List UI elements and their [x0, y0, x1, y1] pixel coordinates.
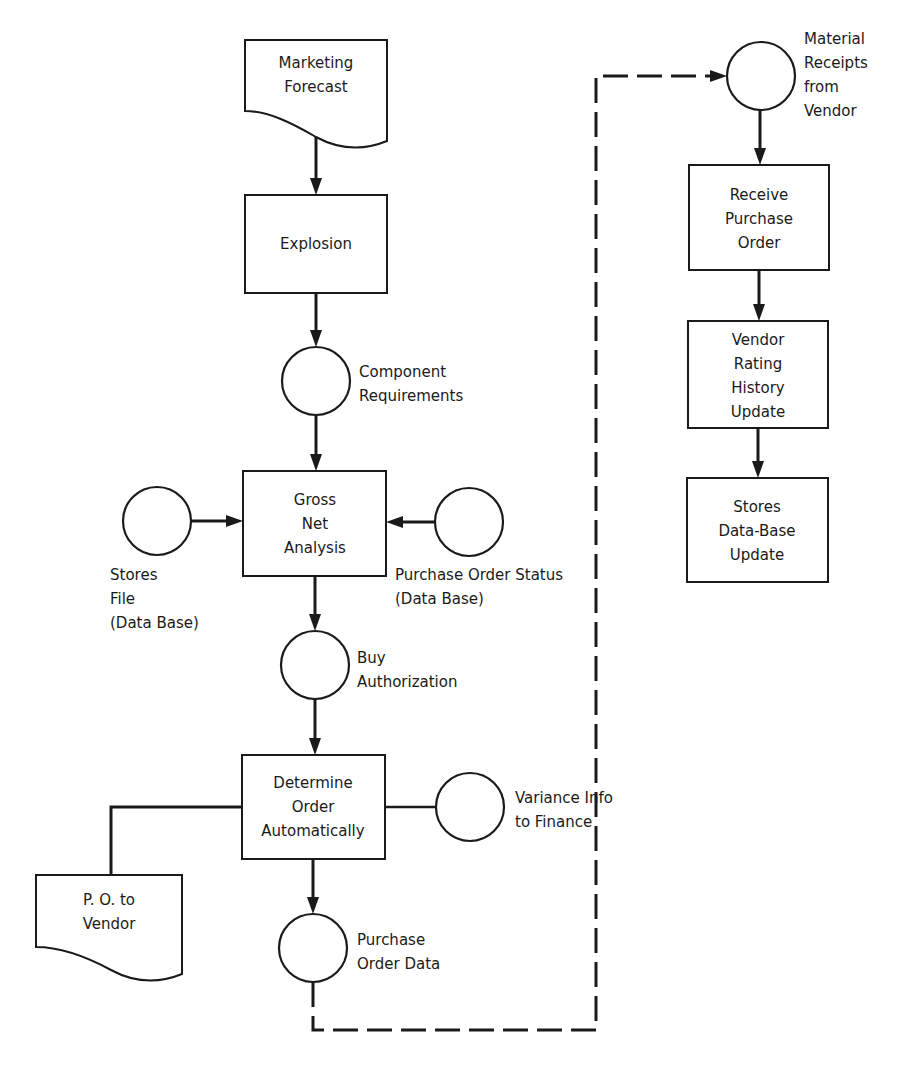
- node-label: Net: [302, 515, 328, 533]
- node-label: Stores: [733, 498, 781, 516]
- node-label: History: [731, 379, 784, 397]
- arrow-head-icon: [310, 330, 322, 347]
- node-label: Order Data: [357, 955, 440, 973]
- arrow-head-icon: [386, 516, 403, 528]
- node-label: from: [804, 78, 839, 96]
- arrow-head-icon: [753, 304, 765, 321]
- flowchart-canvas: Marketing Forecast Explosion Component R…: [0, 0, 899, 1067]
- arrow-head-icon: [752, 461, 764, 478]
- edges: [111, 70, 766, 1030]
- node-label: (Data Base): [110, 614, 199, 632]
- node-label: File: [110, 590, 135, 608]
- node-label: Vendor: [732, 331, 786, 349]
- node-label: Component: [359, 363, 446, 381]
- arrow-head-icon: [754, 148, 766, 165]
- node-label: Determine: [273, 774, 352, 792]
- node-marketing-forecast: Marketing Forecast: [245, 40, 387, 147]
- node-label: (Data Base): [395, 590, 484, 608]
- node-receive-purchase-order: Receive Purchase Order: [689, 165, 829, 270]
- node-buy-authorization: Buy Authorization: [281, 631, 457, 699]
- node-po-to-vendor: P. O. to Vendor: [36, 875, 182, 980]
- node-label: Explosion: [280, 235, 352, 253]
- node-purchase-order-status: Purchase Order Status (Data Base): [395, 488, 563, 608]
- node-label: Material: [804, 30, 865, 48]
- node-explosion: Explosion: [245, 195, 387, 293]
- arrow-head-icon: [309, 614, 321, 631]
- node-determine-order: Determine Order Automatically: [242, 755, 385, 859]
- arrow-head-icon: [710, 70, 727, 82]
- node-label: Analysis: [284, 539, 346, 557]
- node-label: Rating: [734, 355, 782, 373]
- node-label: Automatically: [261, 822, 364, 840]
- node-label: Marketing: [279, 54, 354, 72]
- node-label: Forecast: [284, 78, 348, 96]
- node-vendor-rating-history: Vendor Rating History Update: [688, 321, 828, 428]
- node-label: Purchase Order Status: [395, 566, 563, 584]
- node-label: Receipts: [804, 54, 868, 72]
- node-label: Update: [731, 403, 785, 421]
- edge-determine-povendor: [111, 807, 242, 875]
- node-label: Authorization: [357, 673, 457, 691]
- node-label: to Finance: [515, 813, 592, 831]
- node-label: Requirements: [359, 387, 463, 405]
- node-label: Order: [738, 234, 781, 252]
- node-material-receipts: Material Receipts from Vendor: [727, 30, 868, 120]
- node-label: Purchase: [725, 210, 793, 228]
- node-label: Gross: [294, 491, 336, 509]
- node-label: Variance Info: [515, 789, 613, 807]
- node-label: P. O. to: [83, 891, 135, 909]
- node-label: Receive: [730, 186, 789, 204]
- node-gross-net-analysis: Gross Net Analysis: [243, 471, 386, 576]
- node-label: Purchase: [357, 931, 425, 949]
- node-purchase-order-data: Purchase Order Data: [279, 914, 440, 982]
- arrow-head-icon: [310, 178, 322, 195]
- node-label: Stores: [110, 566, 158, 584]
- node-stores-database-update: Stores Data-Base Update: [687, 478, 828, 582]
- node-label: Vendor: [804, 102, 858, 120]
- node-component-requirements: Component Requirements: [282, 347, 463, 415]
- node-variance-info: Variance Info to Finance: [436, 773, 613, 841]
- arrow-head-icon: [309, 738, 321, 755]
- arrow-head-icon: [226, 515, 243, 527]
- node-label: Buy: [357, 649, 386, 667]
- node-label: Update: [730, 546, 784, 564]
- node-label: Vendor: [83, 915, 137, 933]
- arrow-head-icon: [310, 454, 322, 471]
- node-label: Order: [292, 798, 335, 816]
- arrow-head-icon: [307, 897, 319, 914]
- node-label: Data-Base: [718, 522, 795, 540]
- node-stores-file: Stores File (Data Base): [110, 487, 199, 632]
